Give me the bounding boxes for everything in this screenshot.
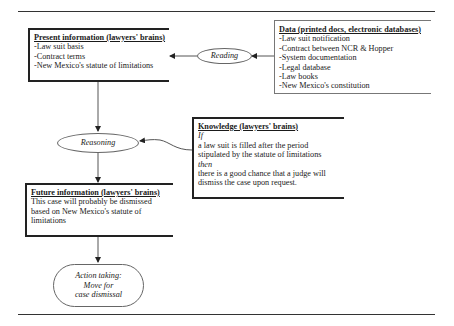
data-item: -Law suit notification [279, 34, 427, 43]
knowledge-box: Knowledge (lawyers' brains) If a law sui… [192, 117, 344, 199]
reading-process: Reading [197, 48, 252, 64]
data-item: -Law books [279, 72, 427, 81]
future-line: based on New Mexico's statute of [31, 207, 169, 216]
data-item: -Legal database [279, 63, 427, 72]
knowledge-condition: stipulated by the statute of limitations [198, 150, 340, 159]
action-line: Move for [75, 281, 122, 291]
data-title: Data (printed docs, electronic databases… [279, 25, 427, 34]
data-item: -New Mexico's constitution [279, 81, 427, 90]
data-item: -System documentation [279, 53, 427, 62]
present-item: -Contract terms [34, 52, 165, 61]
data-box: Data (printed docs, electronic databases… [274, 20, 431, 94]
knowledge-consequence: there is a good chance that a judge will [198, 169, 340, 178]
present-item: -Law suit basis [34, 42, 165, 51]
reasoning-label: Reasoning [81, 138, 116, 148]
knowledge-then: then [198, 160, 340, 169]
action-taking-process: Action taking: Move for case dismissal [53, 264, 144, 307]
knowledge-if: If [198, 131, 340, 140]
future-line: This case will probably be dismissed [31, 197, 169, 206]
action-line: case dismissal [75, 290, 122, 300]
knowledge-consequence: dismiss the case upon request. [198, 178, 340, 187]
future-information-box: Future information (lawyers' brains) Thi… [25, 183, 173, 237]
knowledge-title: Knowledge (lawyers' brains) [198, 122, 340, 131]
future-information-title: Future information (lawyers' brains) [31, 188, 169, 197]
reading-label: Reading [211, 51, 238, 61]
present-item: -New Mexico's statute of limitations [34, 61, 165, 70]
reasoning-process: Reasoning [57, 133, 139, 153]
action-line: Action taking: [75, 271, 122, 281]
knowledge-condition: a law suit is filled after the period [198, 141, 340, 150]
future-line: limitations [31, 216, 169, 225]
present-information-title: Present information (lawyers' brains) [34, 33, 165, 42]
data-item: -Contract between NCR & Hopper [279, 44, 427, 53]
present-information-box: Present information (lawyers' brains) -L… [28, 28, 169, 82]
